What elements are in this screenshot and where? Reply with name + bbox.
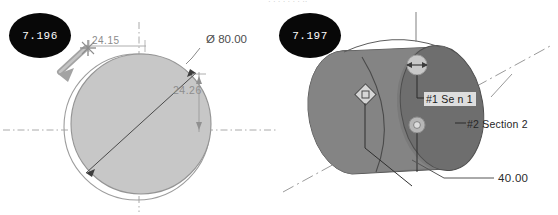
figure-badge-left: 7.196	[9, 13, 71, 58]
section-2-node-marker	[409, 117, 425, 133]
clipped-header-text: · · · · · · · ··	[268, 0, 558, 4]
section-1-handle-marker	[406, 55, 428, 75]
figure-badge-right: 7.197	[279, 13, 341, 58]
dim-2426-label: 24.26	[173, 84, 202, 96]
section-2-callout-label[interactable]: #2 Section 2	[467, 118, 528, 130]
dim-2415-label: 24.15	[92, 35, 120, 46]
dim-2426-arrow-top	[196, 76, 202, 84]
dim-40-label: 40.00	[498, 172, 528, 184]
section-1-callout-label[interactable]: #1 Se n 1	[424, 92, 476, 106]
figure-stage: · · · · · · · ··	[0, 0, 558, 215]
diameter-leader	[186, 48, 200, 64]
diameter-label: Ø 80.00	[206, 33, 247, 45]
section-1-tail-leader	[491, 74, 512, 97]
